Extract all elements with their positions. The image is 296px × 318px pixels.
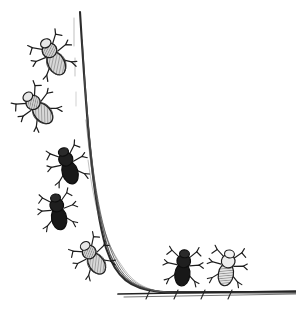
scene-drawing [0, 0, 296, 318]
illustration-canvas: Flies Climbing a Steep Curve pen-and-ink… [0, 0, 296, 318]
